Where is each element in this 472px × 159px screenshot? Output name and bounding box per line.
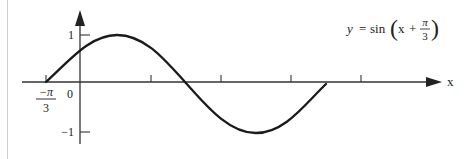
x-tick-label-0: 0: [67, 87, 73, 101]
svg-text:+: +: [409, 21, 416, 36]
y-tick-label-neg1: −1: [61, 125, 74, 139]
y-axis-arrow-icon: [75, 10, 85, 26]
svg-text:3: 3: [422, 30, 428, 42]
y-tick-label-1: 1: [68, 28, 74, 42]
sine-curve: [46, 35, 326, 133]
svg-text:sin: sin: [370, 21, 386, 36]
left-paren: (: [390, 15, 398, 41]
svg-text:=: =: [359, 21, 366, 36]
x-ticks: [46, 75, 361, 82]
svg-text:π: π: [422, 16, 428, 28]
x-axis-arrow-icon: [426, 77, 442, 87]
svg-text:x: x: [398, 21, 405, 36]
sine-chart: 1 −1 0 −π 3 x y = sin ( x + π 3 ): [0, 0, 472, 159]
x-tick-label-neg-pi-den: 3: [43, 101, 49, 115]
right-paren: ): [431, 15, 439, 41]
equation-label: y = sin ( x + π 3 ): [345, 15, 439, 42]
x-tick-label-neg-pi-num: −π: [39, 85, 54, 99]
x-axis-label: x: [447, 74, 454, 89]
svg-text:y: y: [345, 21, 353, 36]
